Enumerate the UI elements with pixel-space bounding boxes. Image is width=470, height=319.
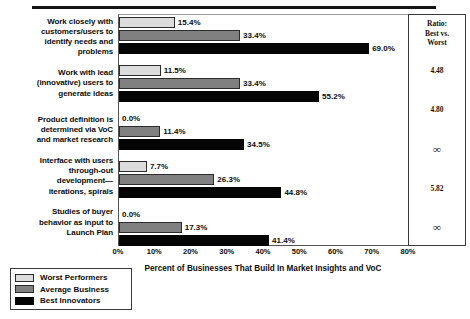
- bar-row: 41.4%: [119, 235, 408, 247]
- bar-value-label: 34.5%: [244, 139, 270, 150]
- category-label: Work with lead(innovative) users togener…: [0, 60, 118, 106]
- bar[interactable]: [119, 43, 369, 54]
- category-label-text: Interface with usersthrough-outdevelopme…: [40, 156, 113, 197]
- bar-row: 34.5%: [119, 139, 408, 151]
- ratio-value: 4.80: [409, 90, 465, 129]
- bar-row: 17.3%: [119, 222, 408, 234]
- ratio-panel: Ratio: Best vs. Worst 4.484.80∞5.82∞: [408, 14, 466, 246]
- bar-group: 7.7%26.3%44.8%: [119, 161, 408, 207]
- category-label-text: Product definition isdetermined via VoCa…: [37, 115, 113, 146]
- x-axis-tick-label: 50%: [292, 247, 307, 256]
- bar-value-label: 55.2%: [319, 91, 345, 102]
- bar[interactable]: [119, 222, 182, 233]
- bar-row: 11.4%: [119, 126, 408, 138]
- bar-value-label: 33.4%: [240, 78, 266, 89]
- category-axis-labels: Work closely withcustomers/users toident…: [0, 14, 118, 246]
- bar-value-label: 26.3%: [214, 174, 240, 185]
- bar-row: 33.4%: [119, 78, 408, 90]
- bar[interactable]: [119, 65, 161, 76]
- bar[interactable]: [119, 174, 214, 185]
- bar[interactable]: [119, 161, 147, 172]
- ratio-value: 5.82: [409, 169, 465, 208]
- legend-item[interactable]: Best Innovators: [15, 295, 127, 307]
- ratio-header-line-1: Ratio:: [409, 19, 465, 29]
- bar-value-label: 33.4%: [240, 30, 266, 41]
- legend-item[interactable]: Worst Performers: [15, 272, 127, 284]
- bar[interactable]: [119, 235, 269, 246]
- bar[interactable]: [119, 139, 244, 150]
- bar[interactable]: [119, 126, 160, 137]
- bar-group: 15.4%33.4%69.0%: [119, 17, 408, 63]
- ratio-value: ∞: [409, 208, 465, 247]
- bar-row: 11.5%: [119, 65, 408, 77]
- bar-value-label: 44.8%: [281, 187, 307, 198]
- bar-value-label: 41.4%: [269, 235, 295, 246]
- bar-row: 69.0%: [119, 43, 408, 55]
- category-label-text: Work closely withcustomers/users toident…: [41, 17, 113, 58]
- chart-legend: Worst PerformersAverage BusinessBest Inn…: [10, 268, 132, 310]
- bar-value-label: 0.0%: [119, 113, 140, 124]
- ratio-value: ∞: [409, 129, 465, 168]
- category-label: Work closely withcustomers/users toident…: [0, 14, 118, 60]
- bars-region: 15.4%33.4%69.0%11.5%33.4%55.2%0.0%11.4%3…: [118, 14, 408, 246]
- bar[interactable]: [119, 187, 281, 198]
- legend-label: Worst Performers: [40, 273, 107, 282]
- top-rule-divider: [32, 6, 436, 9]
- bar-value-label: 11.5%: [161, 65, 186, 76]
- x-axis-tick-label: 80%: [400, 247, 415, 256]
- x-axis-tick-label: 70%: [364, 247, 379, 256]
- bar[interactable]: [119, 78, 240, 89]
- bar-value-label: 7.7%: [147, 161, 168, 172]
- bar-group: 11.5%33.4%55.2%: [119, 65, 408, 111]
- bar-row: 15.4%: [119, 17, 408, 29]
- ratio-value-list: 4.484.80∞5.82∞: [409, 51, 465, 247]
- bar-value-label: 15.4%: [175, 17, 201, 28]
- legend-item[interactable]: Average Business: [15, 284, 127, 296]
- bar-value-label: 0.0%: [119, 209, 140, 220]
- plot-area: Work closely withcustomers/users toident…: [0, 14, 408, 246]
- legend-swatch: [15, 297, 34, 305]
- bar-row: 0.0%: [119, 209, 408, 221]
- x-axis-tick-label: 40%: [255, 247, 270, 256]
- ratio-header-line-2: Best vs.: [409, 29, 465, 39]
- ratio-header-line-3: Worst: [409, 38, 465, 48]
- x-axis-title: Percent of Businesses That Build In Mark…: [118, 264, 408, 273]
- bar-row: 0.0%: [119, 113, 408, 125]
- bar-value-label: 17.3%: [182, 222, 208, 233]
- bar-row: 55.2%: [119, 91, 408, 103]
- ratio-panel-header: Ratio: Best vs. Worst: [409, 15, 465, 48]
- x-axis-ticks: 0%10%20%30%40%50%60%70%80%: [118, 247, 408, 259]
- category-label: Interface with usersthrough-outdevelopme…: [0, 153, 118, 199]
- bar-row: 33.4%: [119, 30, 408, 42]
- bar[interactable]: [119, 91, 319, 102]
- bar-value-label: 69.0%: [369, 43, 395, 54]
- ratio-value: 4.48: [409, 51, 465, 90]
- legend-swatch: [15, 274, 34, 282]
- bar-row: 26.3%: [119, 174, 408, 186]
- x-axis-tick-label: 10%: [147, 247, 162, 256]
- bar-group: 0.0%11.4%34.5%: [119, 113, 408, 159]
- x-axis-tick-label: 30%: [219, 247, 234, 256]
- bar-row: 44.8%: [119, 187, 408, 199]
- x-axis-tick-label: 60%: [328, 247, 343, 256]
- legend-label: Average Business: [40, 285, 109, 294]
- x-axis-tick-label: 20%: [183, 247, 198, 256]
- bar[interactable]: [119, 30, 240, 41]
- category-label-text: Studies of buyerbehavior as input toLaun…: [39, 207, 113, 238]
- bar[interactable]: [119, 17, 175, 28]
- chart-page: Work closely withcustomers/users toident…: [0, 0, 470, 319]
- bar-value-label: 11.4%: [160, 126, 185, 137]
- category-label: Studies of buyerbehavior as input toLaun…: [0, 200, 118, 246]
- x-axis-tick-label: 0%: [113, 247, 124, 256]
- bar-row: 7.7%: [119, 161, 408, 173]
- category-label-text: Work with lead(innovative) users togener…: [37, 68, 113, 99]
- legend-swatch: [15, 285, 34, 293]
- category-label: Product definition isdetermined via VoCa…: [0, 107, 118, 153]
- legend-label: Best Innovators: [40, 296, 100, 305]
